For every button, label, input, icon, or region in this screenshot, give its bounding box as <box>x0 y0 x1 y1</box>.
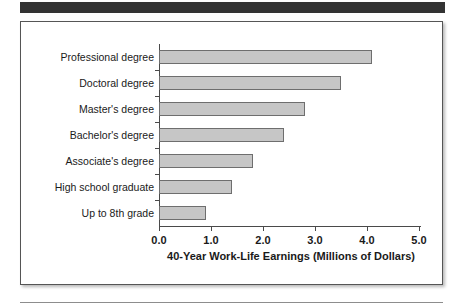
bar <box>159 76 341 90</box>
category-label: Up to 8th grade <box>24 200 154 226</box>
x-axis-tick <box>419 227 420 231</box>
bar <box>159 154 253 168</box>
bar <box>159 206 206 220</box>
category-axis-labels: Professional degreeDoctoral degreeMaster… <box>21 44 154 226</box>
bar-row <box>159 174 232 200</box>
bar <box>159 50 372 64</box>
bar-row <box>159 96 305 122</box>
y-axis-tick <box>155 148 159 149</box>
x-axis-tick-label: 2.0 <box>255 234 270 246</box>
y-axis-tick <box>155 70 159 71</box>
x-axis-tick-label: 1.0 <box>203 234 218 246</box>
category-label: Bachelor's degree <box>24 122 154 148</box>
category-label: Doctoral degree <box>24 70 154 96</box>
chart-figure-frame: Professional degreeDoctoral degreeMaster… <box>20 21 443 285</box>
x-axis-tick-label: 3.0 <box>307 234 322 246</box>
x-axis-tick-label: 5.0 <box>411 234 426 246</box>
x-axis-tick <box>367 227 368 231</box>
x-axis-tick <box>211 227 212 231</box>
bar-row <box>159 200 206 226</box>
bar-row <box>159 148 253 174</box>
category-label: High school graduate <box>24 174 154 200</box>
bar <box>159 128 284 142</box>
y-axis-tick <box>155 200 159 201</box>
x-axis-tick-label: 4.0 <box>359 234 374 246</box>
bar-row <box>159 44 372 70</box>
x-axis-tick <box>315 227 316 231</box>
bar <box>159 102 305 116</box>
top-dark-banner <box>20 2 445 13</box>
x-axis-tick <box>159 227 160 231</box>
y-axis-tick <box>155 122 159 123</box>
x-axis-title: 40-Year Work-Life Earnings (Millions of … <box>159 250 423 262</box>
x-axis-tick <box>263 227 264 231</box>
category-label: Associate's degree <box>24 148 154 174</box>
x-axis-line <box>159 226 421 227</box>
category-label: Professional degree <box>24 44 154 70</box>
plot-area: 0.01.02.03.04.05.0 <box>159 44 421 226</box>
bar-row <box>159 70 341 96</box>
bar <box>159 180 232 194</box>
x-axis-tick-label: 0.0 <box>151 234 166 246</box>
y-axis-tick <box>155 96 159 97</box>
y-axis-tick <box>155 174 159 175</box>
category-label: Master's degree <box>24 96 154 122</box>
bar-row <box>159 122 284 148</box>
bottom-divider-rule <box>20 302 443 303</box>
